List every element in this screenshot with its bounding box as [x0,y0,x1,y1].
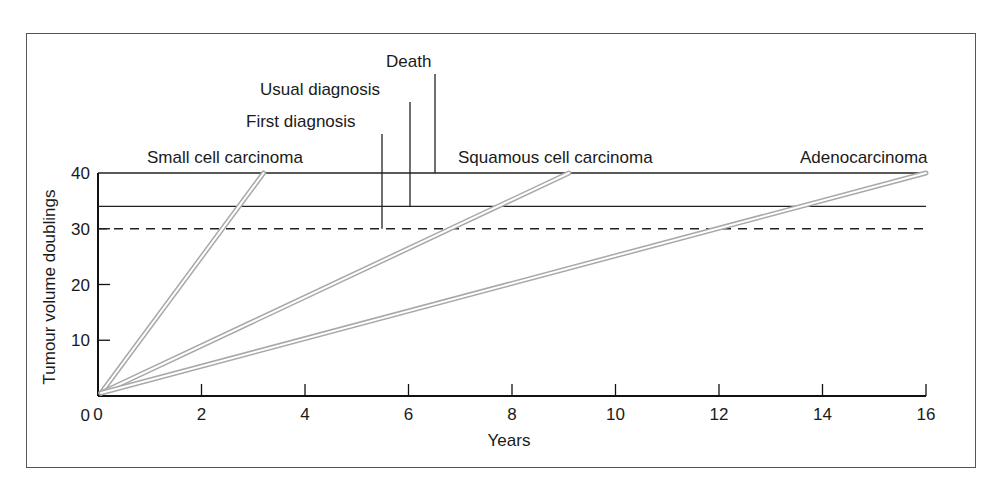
annotation-label: Death [386,52,431,71]
x-tick-label: 4 [300,405,309,424]
annotation-label: First diagnosis [246,112,356,131]
y-tick-label: 40 [71,164,90,183]
chart: 0246810121416010203040YearsTumour volume… [0,0,989,498]
y-axis-title: Tumour volume doublings [40,190,59,385]
x-tick-label: 6 [404,405,413,424]
x-tick-label: 16 [917,405,936,424]
x-tick-label: 2 [197,405,206,424]
annotation-label: Usual diagnosis [260,80,380,99]
x-tick-label: 14 [813,405,832,424]
y-tick-label: 30 [71,220,90,239]
y-tick-label: 0 [81,406,90,425]
x-axis-title: Years [488,431,531,450]
x-tick-label: 0 [93,405,102,424]
y-tick-label: 10 [71,331,90,350]
series-label: Squamous cell carcinoma [458,148,653,167]
series-label: Small cell carcinoma [147,148,303,167]
x-tick-label: 10 [606,405,625,424]
x-tick-label: 12 [710,405,729,424]
y-tick-label: 20 [71,276,90,295]
series-label: Adenocarcinoma [800,148,928,167]
x-tick-label: 8 [507,405,516,424]
